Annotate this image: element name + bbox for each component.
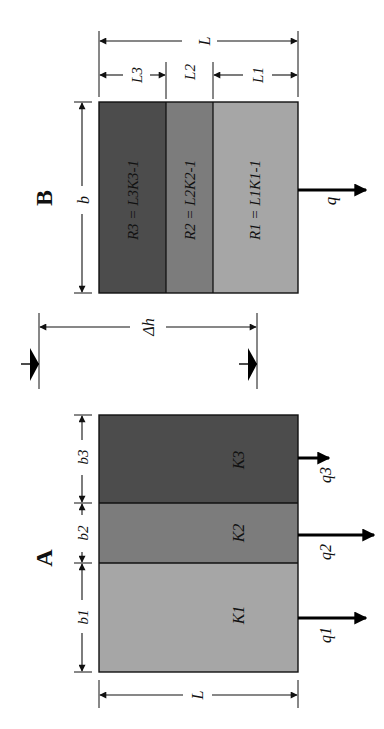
panel-a-layer-2 <box>99 503 298 563</box>
panel-a-heading: A <box>31 549 57 567</box>
panel-a: A b3 b2 b1 K3 <box>31 415 374 708</box>
layer-3-resistance-label: R3 = L3K3-1 <box>125 160 141 241</box>
panel-b-width-dimension: b <box>74 102 92 293</box>
layer-3-length-label: L3 <box>129 67 145 84</box>
panel-b-layer-length-dimensions: L3 L2 L1 <box>100 62 297 99</box>
panel-b-flow-label: q <box>321 196 340 205</box>
layer-1-length-label: L1 <box>250 67 266 84</box>
layer-3-width-label: b3 <box>75 450 91 465</box>
panel-b-width-label: b <box>75 196 92 204</box>
panel-a-length-label: L <box>189 690 206 700</box>
layer-3-conductivity-label: K3 <box>230 451 247 471</box>
upstream-water-table-icon <box>21 348 39 381</box>
layer-1-width-label: b1 <box>75 610 91 625</box>
panel-b-total-length-dimension: L <box>99 31 298 97</box>
panel-a-flow-arrows: q3 q2 q1 <box>298 458 374 643</box>
layer-2-length-label: L2 <box>182 64 198 81</box>
head-difference-label: Δh <box>140 318 157 336</box>
layer-1-flow-label: q1 <box>317 627 335 643</box>
panel-a-layer-3 <box>99 415 298 503</box>
layer-1-conductivity-label: K1 <box>230 606 247 626</box>
layer-2-flow-label: q2 <box>317 544 335 560</box>
panel-a-layer-1 <box>99 563 298 672</box>
panel-b-box: R3 = L3K3-1 R2 = L2K2-1 R1 = L1K1-1 <box>99 102 298 293</box>
panel-a-length-dimension: L <box>99 680 298 708</box>
layer-2-width-label: b2 <box>75 525 91 541</box>
layer-2-conductivity-label: K2 <box>230 524 247 544</box>
layer-1-resistance-label: R1 = L1K1-1 <box>247 160 263 241</box>
head-difference: Δh <box>21 313 257 389</box>
panel-a-box: K3 K2 K1 <box>99 415 298 672</box>
panel-a-width-dimensions: b3 b2 b1 <box>74 415 92 672</box>
layer-3-flow-label: q3 <box>317 467 335 483</box>
layered-aquifer-diagram: B L L3 L2 L1 <box>0 0 384 729</box>
downstream-water-table-icon <box>239 348 257 381</box>
layer-2-resistance-label: R2 = L2K2-1 <box>182 160 198 241</box>
panel-b-flow-arrow: q <box>298 190 366 205</box>
panel-b-total-length-label: L <box>196 36 213 46</box>
panel-b: B L L3 L2 L1 <box>31 31 366 293</box>
panel-b-heading: B <box>31 190 57 206</box>
